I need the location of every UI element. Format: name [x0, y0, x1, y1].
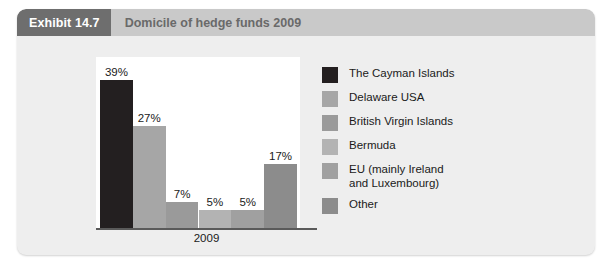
legend-item-2: Delaware USA [322, 91, 572, 107]
exhibit-header: Exhibit 14.7 Domicile of hedge funds 200… [17, 9, 595, 36]
legend-label-1: The Cayman Islands [349, 67, 454, 81]
legend-swatch-icon-3 [322, 115, 338, 131]
chart-legend: The Cayman IslandsDelaware USABritish Vi… [322, 67, 572, 222]
legend-item-4: Bermuda [322, 139, 572, 155]
legend-label-2: Delaware USA [349, 91, 424, 105]
bar-value-label-2: 27% [127, 112, 172, 124]
legend-label-6: Other [349, 198, 378, 212]
bar-4 [199, 210, 232, 229]
legend-swatch-icon-4 [322, 139, 338, 155]
bar-5 [231, 210, 264, 229]
legend-swatch-icon-2 [322, 91, 338, 107]
legend-label-3: British Virgin Islands [349, 115, 453, 129]
legend-item-3: British Virgin Islands [322, 115, 572, 131]
bar-2 [133, 126, 166, 229]
bar-6 [264, 164, 297, 229]
bar-value-label-1: 39% [94, 66, 139, 78]
bar-value-label-6: 17% [258, 150, 303, 162]
legend-item-1: The Cayman Islands [322, 67, 572, 83]
x-axis-line [96, 228, 317, 230]
exhibit-title: Domicile of hedge funds 2009 [111, 9, 301, 36]
legend-swatch-icon-5 [322, 163, 338, 179]
exhibit-card: Exhibit 14.7 Domicile of hedge funds 200… [17, 9, 595, 255]
bars-layer: 39%27%7%5%5%17% [96, 57, 300, 229]
x-axis-tick-label: 2009 [96, 232, 317, 244]
chart-region: 39%27%7%5%5%17% 2009 The Cayman IslandsD… [17, 36, 595, 255]
legend-item-5: EU (mainly Ireland and Luxembourg) [322, 163, 572, 190]
legend-item-6: Other [322, 198, 572, 214]
plot-panel: 39%27%7%5%5%17% [96, 57, 300, 229]
legend-label-5: EU (mainly Ireland and Luxembourg) [349, 163, 444, 190]
legend-label-4: Bermuda [349, 139, 396, 153]
bar-1 [100, 80, 133, 229]
legend-swatch-icon-6 [322, 198, 338, 214]
exhibit-number-tag: Exhibit 14.7 [17, 9, 111, 36]
legend-swatch-icon-1 [322, 67, 338, 83]
